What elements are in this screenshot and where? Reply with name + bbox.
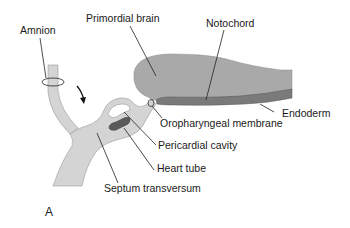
leader-amnion [40,38,46,78]
embryo-diagram: Amnion Primordial brain Notochord Endode… [0,0,350,228]
septum-transversum-region [53,98,156,186]
label-notochord: Notochord [206,17,255,29]
label-oropharyngeal-membrane: Oropharyngeal membrane [160,117,283,129]
label-primordial-brain: Primordial brain [86,12,160,24]
panel-label: A [45,205,53,219]
label-septum-transversum: Septum transversum [104,182,201,194]
amnion-stalk [48,65,78,134]
leader-endoderm [260,104,274,112]
label-endoderm: Endoderm [282,107,331,119]
leader-heart-tube [124,128,154,170]
arrowhead-icon [80,97,86,104]
label-heart-tube: Heart tube [157,162,206,174]
label-amnion: Amnion [20,24,56,36]
label-pericardial-cavity: Pericardial cavity [158,139,238,151]
